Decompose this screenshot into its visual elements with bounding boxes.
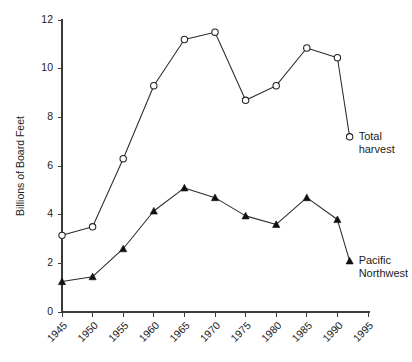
data-point-marker (346, 134, 352, 140)
y-tick-label: 6 (47, 159, 53, 171)
series-markers (58, 29, 353, 285)
x-tick-label: 1960 (136, 319, 161, 344)
y-axis-title: Billions of Board Feet (14, 116, 26, 216)
data-point-marker (181, 36, 187, 42)
data-point-marker (304, 45, 310, 51)
axes-group (62, 19, 370, 312)
data-point-marker (181, 184, 188, 191)
x-tick-label: 1980 (259, 319, 284, 344)
y-tick-label: 0 (47, 305, 53, 317)
data-point-marker (346, 257, 353, 264)
chart-canvas: 024681012 194519501955196019651970197519… (0, 0, 412, 362)
x-tick-label: 1955 (106, 319, 131, 344)
y-tick-label: 4 (47, 207, 53, 219)
y-tick-label: 2 (47, 256, 53, 268)
series-inline-labels: TotalharvestPacificNorthwest (359, 130, 409, 279)
y-axis-tick-labels: 024681012 (41, 13, 53, 317)
series-label-1-line1: Total (359, 130, 382, 142)
data-point-marker (212, 29, 218, 35)
x-tick-label: 1975 (228, 319, 253, 344)
data-point-marker (242, 212, 249, 219)
data-point-marker (242, 97, 248, 103)
data-point-marker (150, 207, 157, 214)
data-point-marker (120, 156, 126, 162)
data-point-marker (334, 55, 340, 61)
data-point-marker (59, 232, 65, 238)
data-point-marker (89, 224, 95, 230)
data-point-marker (151, 83, 157, 89)
series-line-2 (62, 188, 350, 282)
series-polylines (62, 32, 350, 281)
x-tick-label: 1985 (289, 319, 314, 344)
series-line-1 (62, 32, 350, 235)
x-tick-label: 1990 (320, 319, 345, 344)
x-tick-label: 1945 (44, 319, 69, 344)
data-point-marker (273, 83, 279, 89)
line-chart: 024681012 194519501955196019651970197519… (0, 0, 412, 362)
data-point-marker (303, 194, 310, 201)
series-label-1-line2: harvest (359, 143, 395, 155)
series-label-2-line1: Pacific (359, 254, 392, 266)
y-tick-label: 8 (47, 110, 53, 122)
x-tick-label: 1950 (75, 319, 100, 344)
y-tick-label: 12 (41, 13, 53, 25)
y-tick-label: 10 (41, 61, 53, 73)
x-tick-label: 1965 (167, 319, 192, 344)
x-axis-tick-labels: 1945195019551960196519701975198019851990… (44, 319, 375, 344)
series-label-2-line2: Northwest (359, 267, 409, 279)
x-axis-ticks (62, 312, 368, 317)
x-tick-label: 1995 (350, 319, 375, 344)
x-tick-label: 1970 (197, 319, 222, 344)
y-axis-ticks (58, 20, 62, 312)
data-point-marker (334, 216, 341, 223)
